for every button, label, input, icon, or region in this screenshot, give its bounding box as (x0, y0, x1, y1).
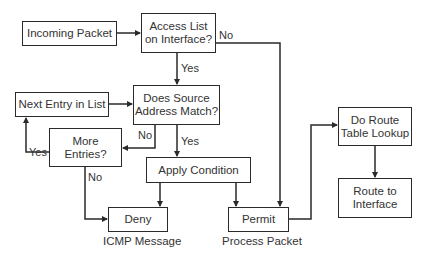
caption-icmp-message: ICMP Message (103, 235, 181, 247)
edge-permit-to-route (289, 125, 337, 219)
label-moreentries-no: No (88, 171, 102, 183)
node-access-list-decision: Access List on Interface? (141, 13, 216, 53)
label-source-yes: Yes (181, 135, 199, 147)
node-route-to-interface: Route to Interface (338, 178, 412, 218)
label-accesslist-yes: Yes (181, 62, 199, 74)
node-next-entry: Next Entry in List (15, 92, 109, 117)
label-source-no: No (138, 129, 152, 141)
label-accesslist-no: No (219, 29, 233, 41)
flowchart-canvas: Incoming Packet Access List on Interface… (0, 0, 427, 260)
node-apply-condition: Apply Condition (146, 157, 251, 183)
node-more-entries: More Entries? (49, 128, 122, 167)
label-moreentries-yes: Yes (29, 146, 47, 158)
node-do-route-lookup: Do Route Table Lookup (338, 107, 412, 146)
caption-process-packet: Process Packet (222, 235, 302, 247)
node-deny: Deny (108, 207, 168, 232)
node-does-source-match: Does Source Address Match? (133, 85, 220, 125)
node-incoming-packet: Incoming Packet (22, 21, 117, 46)
node-permit: Permit (228, 207, 289, 232)
